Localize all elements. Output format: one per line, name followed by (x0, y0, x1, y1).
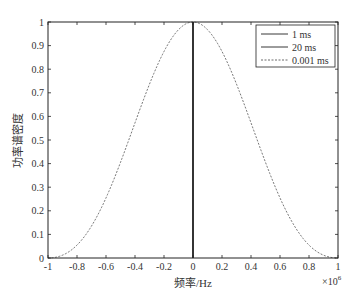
x-tick-label: 0.8 (303, 261, 316, 272)
x-tick-label: -1 (44, 261, 52, 272)
x-multiplier-base: ×10 (322, 276, 338, 287)
y-tick-label: 0.1 (32, 229, 45, 240)
x-tick-label: -0.4 (127, 261, 143, 272)
x-axis-label: 频率/Hz (174, 276, 212, 289)
legend: 1 ms 20 ms 0.001 ms (256, 25, 335, 67)
x-tick-label: 0 (191, 261, 196, 272)
x-tick-label: 1 (336, 261, 341, 272)
x-tick-label: -0.8 (69, 261, 85, 272)
y-tick-label: 1 (39, 17, 44, 28)
x-multiplier-exponent: 6 (338, 274, 342, 282)
y-tick-label: 0.8 (32, 64, 45, 75)
y-tick-label: 0.4 (32, 158, 45, 169)
legend-label-20ms: 20 ms (292, 42, 316, 53)
psd-chart: 00.10.20.30.40.50.60.70.80.91 -1-0.8-0.6… (0, 0, 356, 294)
x-tick-label: 0.2 (216, 261, 229, 272)
y-tick-label: 0.9 (32, 40, 45, 51)
legend-label-0001ms: 0.001 ms (292, 55, 329, 66)
x-axis-multiplier: ×106 (322, 274, 342, 287)
y-tick-label: 0.7 (32, 87, 45, 98)
y-axis-label: 功率谱密度 (11, 113, 24, 168)
x-tick-label: -0.2 (156, 261, 172, 272)
y-tick-label: 0.5 (32, 135, 45, 146)
y-tick-label: 0.2 (32, 205, 45, 216)
x-tick-label: -0.6 (98, 261, 114, 272)
y-tick-label: 0.6 (32, 111, 45, 122)
y-tick-label: 0.3 (32, 182, 45, 193)
x-tick-label: 0.6 (274, 261, 287, 272)
x-tick-label: 0.4 (245, 261, 258, 272)
legend-label-1ms: 1 ms (292, 29, 311, 40)
